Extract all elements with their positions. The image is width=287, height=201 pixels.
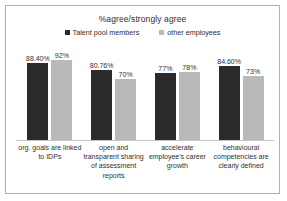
category-label-0: org. goals are linked to IDPs	[18, 143, 82, 161]
bar-rect-series2-cat3	[243, 76, 264, 140]
bar-rect-series1-cat3	[219, 66, 240, 140]
bar-item-series1-cat1: 80.76%	[91, 42, 112, 140]
bar-item-series1-cat0: 88.40%	[27, 42, 48, 140]
chart-bars-region: 88.40% 92% 80.76% 70%	[18, 42, 273, 140]
bar-value-label: 78%	[182, 64, 196, 71]
chart-category-axis: org. goals are linked to IDPs open and t…	[18, 141, 273, 189]
legend-swatch-icon-series-1	[65, 30, 70, 35]
chart-legend: Talent pool members other employees	[6, 28, 279, 37]
bar-item-series2-cat1: 70%	[115, 42, 136, 140]
bar-group-1: 80.76% 70%	[82, 42, 146, 140]
bar-rect-series2-cat1	[115, 79, 136, 140]
chart-frame: %agree/strongly agree Talent pool member…	[5, 5, 280, 194]
category-label-2: accelerate employee's career growth	[146, 143, 210, 171]
bar-rect-series1-cat2	[155, 73, 176, 140]
bar-rect-series1-cat1	[91, 70, 112, 140]
bar-item-series1-cat2: 77%	[155, 42, 176, 140]
bar-value-label: 88.40%	[26, 55, 50, 62]
bar-group-3: 84.60% 73%	[209, 42, 273, 140]
bar-value-label: 84.60%	[217, 58, 241, 65]
bar-item-series2-cat3: 73%	[243, 42, 264, 140]
bar-value-label: 80.76%	[90, 62, 114, 69]
legend-label-series-1: Talent pool members	[73, 28, 140, 37]
bar-rect-series1-cat0	[27, 63, 48, 140]
bar-value-label: 70%	[119, 71, 133, 78]
bar-rect-series2-cat2	[179, 72, 200, 140]
bar-value-label: 73%	[246, 68, 260, 75]
bar-group-0: 88.40% 92%	[18, 42, 82, 140]
legend-swatch-icon-series-2	[159, 30, 164, 35]
bar-item-series1-cat3: 84.60%	[219, 42, 240, 140]
chart-plot-area: %agree/strongly agree Talent pool member…	[6, 6, 279, 193]
legend-entry-talent-pool-members: Talent pool members	[65, 28, 140, 37]
bar-value-label: 92%	[55, 52, 69, 59]
bar-rect-series2-cat0	[51, 60, 72, 140]
legend-label-series-2: other employees	[167, 28, 220, 37]
category-label-3: behavioural competencies are clearly def…	[209, 143, 273, 171]
legend-entry-other-employees: other employees	[159, 28, 220, 37]
chart-title: %agree/strongly agree	[6, 14, 279, 24]
bar-item-series2-cat2: 78%	[179, 42, 200, 140]
bar-value-label: 77%	[158, 65, 172, 72]
bar-group-2: 77% 78%	[146, 42, 210, 140]
bar-item-series2-cat0: 92%	[51, 42, 72, 140]
category-label-1: open and transparent sharing of assessme…	[82, 143, 146, 180]
